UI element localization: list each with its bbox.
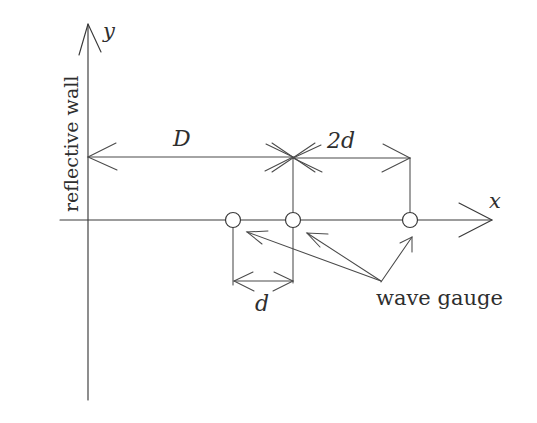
wave-gauge-leaders bbox=[247, 231, 412, 282]
wave-gauge-marker bbox=[286, 213, 301, 228]
x-axis-label: x bbox=[489, 189, 501, 213]
diagram-canvas: y x D 2d d wave gauge reflective wall bbox=[0, 0, 537, 423]
wave-gauge-marker bbox=[403, 213, 418, 228]
wave-gauge-label: wave gauge bbox=[376, 286, 503, 310]
dimension-label-2d: 2d bbox=[326, 128, 355, 153]
dimension-d bbox=[234, 272, 293, 291]
dimension-label-D: D bbox=[172, 126, 191, 151]
dimension-label-d: d bbox=[255, 291, 269, 316]
extension-lines bbox=[233, 157, 410, 285]
y-axis-label: y bbox=[102, 19, 116, 43]
wave-gauge-marker bbox=[226, 213, 241, 228]
reflective-wall-label: reflective wall bbox=[60, 76, 82, 212]
y-axis bbox=[79, 24, 101, 400]
wave-gauge-schematic: y x D 2d d wave gauge reflective wall bbox=[0, 0, 537, 423]
x-axis bbox=[60, 203, 492, 237]
